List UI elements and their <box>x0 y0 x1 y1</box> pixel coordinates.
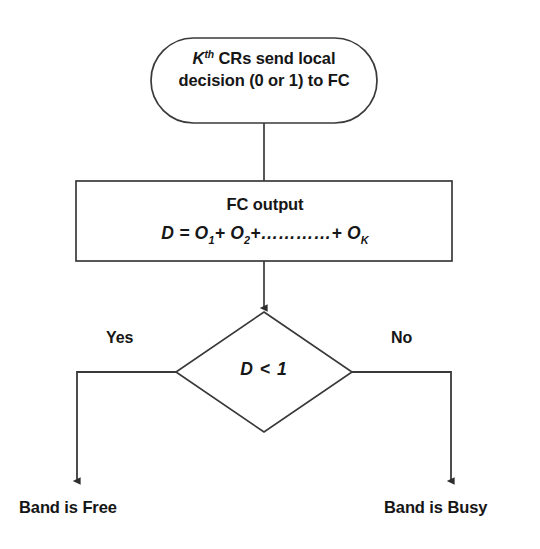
edge-label-yes: Yes <box>106 329 133 347</box>
process-box-title: FC output <box>78 194 452 216</box>
decision-condition-label: D < 1 <box>182 358 346 381</box>
start-label-line1-rest: CRs send local <box>214 49 335 67</box>
edge-label-no: No <box>391 329 412 347</box>
edge-no-branch <box>352 372 451 481</box>
formula-ellipsis: ………… <box>261 223 332 243</box>
condition-lhs: D <box>240 359 254 379</box>
start-terminator-label: Kth CRs send local decision (0 or 1) to … <box>150 48 378 92</box>
formula-subscript-k: K <box>361 234 369 246</box>
formula-mid-3: + O <box>331 223 360 243</box>
process-box-formula: D = O1+ O2+…………+ OK <box>78 222 452 245</box>
formula-mid-1: + O <box>215 223 244 243</box>
formula-lhs: D = O <box>161 223 208 243</box>
start-label-superscript: th <box>204 49 214 60</box>
formula-mid-2: + <box>250 223 260 243</box>
outcome-band-is-busy: Band is Busy <box>384 498 487 517</box>
condition-operator: < <box>260 359 271 379</box>
edge-yes-branch <box>77 372 176 481</box>
outcome-band-is-free: Band is Free <box>19 498 117 517</box>
start-label-line2: decision (0 or 1) to FC <box>179 71 350 89</box>
condition-rhs: 1 <box>277 359 288 379</box>
process-box-shape <box>76 181 452 261</box>
start-label-variable: K <box>193 49 205 67</box>
